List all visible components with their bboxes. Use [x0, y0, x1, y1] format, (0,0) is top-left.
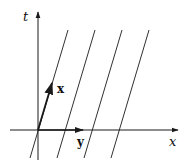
vector-y-label: y — [76, 135, 85, 149]
spacetime-diagram: t x x y — [0, 0, 189, 167]
x-axis-label: x — [169, 134, 177, 149]
vector-x-arrow — [38, 83, 52, 130]
t-axis-label: t — [23, 9, 29, 24]
vector-x-label: x — [57, 82, 65, 96]
